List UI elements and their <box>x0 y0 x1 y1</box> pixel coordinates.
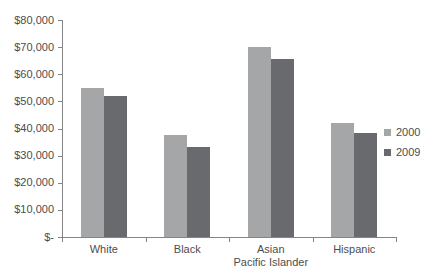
legend-item-2009: 2009 <box>384 147 420 158</box>
legend: 20002009 <box>384 127 420 167</box>
bar-asian-pacific-islander-2009 <box>271 59 294 237</box>
y-tick-mark-1 <box>58 210 62 211</box>
bar-asian-pacific-islander-2000 <box>248 47 271 237</box>
y-tick-label-8: $80,000 <box>0 14 54 27</box>
legend-item-2000: 2000 <box>384 127 420 138</box>
x-tick-mark-1 <box>146 238 147 242</box>
x-tick-mark-3 <box>313 238 314 242</box>
legend-swatch-icon-2009 <box>384 149 391 156</box>
y-tick-mark-4 <box>58 129 62 130</box>
y-tick-label-5: $50,000 <box>0 95 54 108</box>
y-tick-label-7: $70,000 <box>0 41 54 54</box>
y-tick-mark-8 <box>58 20 62 21</box>
y-tick-label-6: $60,000 <box>0 68 54 81</box>
y-tick-label-1: $10,000 <box>0 203 54 216</box>
bar-hispanic-2000 <box>331 123 354 237</box>
x-tick-mark-0 <box>62 238 63 242</box>
y-tick-mark-5 <box>58 101 62 102</box>
bar-white-2009 <box>104 96 127 237</box>
y-tick-label-0: $- <box>0 231 54 244</box>
y-tick-label-2: $20,000 <box>0 176 54 189</box>
y-tick-mark-6 <box>58 74 62 75</box>
category-label-black: Black <box>146 243 230 256</box>
y-tick-mark-7 <box>58 47 62 48</box>
bar-chart: $-$10,000$20,000$30,000$40,000$50,000$60… <box>0 0 433 275</box>
bar-hispanic-2009 <box>354 133 377 237</box>
bar-black-2009 <box>187 147 210 237</box>
legend-label-2009: 2009 <box>396 147 420 158</box>
x-tick-mark-2 <box>229 238 230 242</box>
y-tick-label-4: $40,000 <box>0 122 54 135</box>
y-tick-label-3: $30,000 <box>0 149 54 162</box>
y-tick-mark-3 <box>58 156 62 157</box>
y-tick-mark-2 <box>58 183 62 184</box>
x-tick-mark-4 <box>396 238 397 242</box>
category-label-asian-pacific-islander: Asian Pacific Islander <box>229 243 313 269</box>
bar-white-2000 <box>81 88 104 237</box>
bar-black-2000 <box>164 135 187 237</box>
legend-swatch-icon-2000 <box>384 129 391 136</box>
category-label-hispanic: Hispanic <box>313 243 397 256</box>
category-label-white: White <box>62 243 146 256</box>
legend-label-2000: 2000 <box>396 127 420 138</box>
